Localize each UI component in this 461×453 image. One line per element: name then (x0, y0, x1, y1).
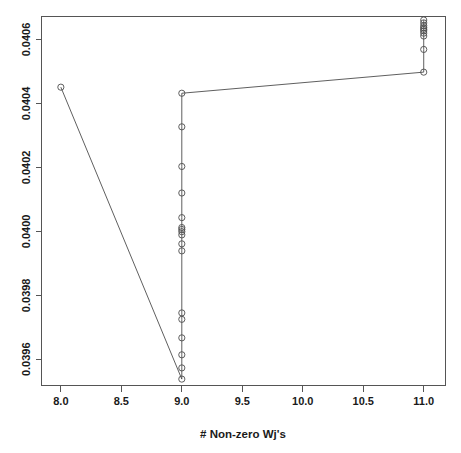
x-tick-label: 11.0 (413, 395, 434, 407)
plot-border (42, 17, 446, 386)
y-axis-tick-labels: 0.03960.03980.04000.04020.04040.0406 (20, 23, 32, 376)
y-tick-label: 0.0402 (20, 151, 32, 185)
series-point-group (58, 17, 427, 382)
series-polyline (61, 20, 424, 379)
x-tick-label: 9.0 (174, 395, 189, 407)
x-tick-label: 9.5 (235, 395, 250, 407)
y-tick-label: 0.0406 (20, 23, 32, 57)
y-tick-label: 0.0400 (20, 215, 32, 249)
x-tick-label: 8.5 (114, 395, 129, 407)
chart-figure: 0.03960.03980.04000.04020.04040.0406 8.0… (0, 0, 461, 453)
x-tick-label: 8.0 (53, 395, 68, 407)
x-tick-label: 10.5 (353, 395, 374, 407)
y-tick-label: 0.0404 (20, 86, 32, 121)
y-tick-label: 0.0398 (20, 279, 32, 313)
plot-frame (42, 17, 446, 386)
x-axis-ticks (61, 386, 424, 392)
x-axis-title: # Non-zero Wj's (200, 428, 286, 440)
plot-canvas: 0.03960.03980.04000.04020.04040.0406 8.0… (0, 0, 461, 453)
y-axis-ticks (36, 40, 42, 360)
y-tick-label: 0.0396 (20, 342, 32, 376)
x-tick-label: 10.0 (292, 395, 313, 407)
series-polyline-group (61, 20, 424, 379)
x-axis-tick-labels: 8.08.59.09.510.010.511.0 (53, 395, 434, 407)
